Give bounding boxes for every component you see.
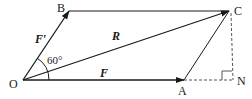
parallelogram-diagram: O B C A N F F′ R 60° — [0, 0, 252, 99]
label-point-c: C — [234, 4, 242, 18]
dashed-c-n — [231, 13, 233, 80]
label-angle: 60° — [47, 54, 62, 66]
label-point-a: A — [178, 84, 187, 98]
side-a-c — [184, 11, 229, 80]
right-angle-marker — [222, 71, 232, 80]
label-point-b: B — [57, 1, 65, 15]
label-vector-f: F — [99, 66, 108, 80]
label-vector-f-prime: F′ — [34, 32, 46, 46]
label-vector-r: R — [111, 29, 120, 43]
vector-r — [23, 11, 229, 80]
label-point-n: N — [237, 74, 246, 88]
label-point-o: O — [9, 77, 18, 91]
